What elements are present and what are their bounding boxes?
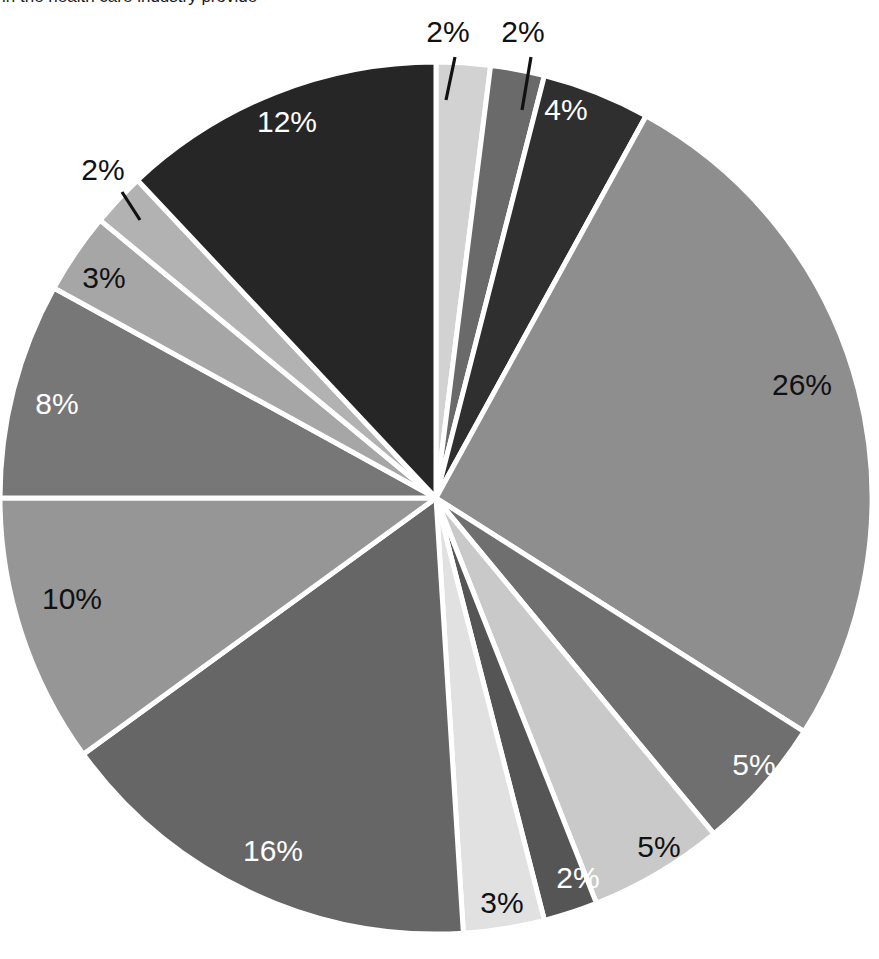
pie-slice-label: 26% [772, 368, 832, 401]
pie-slice-label: 5% [732, 748, 775, 781]
pie-slice-label: 3% [82, 261, 125, 294]
pie-slice-label: 3% [480, 886, 523, 919]
pie-slice-label-outside: 2% [501, 15, 544, 48]
pie-chart-svg: 2%2%4%26%5%5%2%3%16%10%8%3%2%12% [0, 0, 879, 959]
pie-slice-group [0, 62, 872, 934]
pie-slice-label: 8% [35, 387, 78, 420]
pie-slice-label: 10% [42, 582, 102, 615]
pie-slice-label-outside: 2% [426, 15, 469, 48]
pie-chart-page: in the health care industry provide 2%2%… [0, 0, 879, 959]
pie-chart-figure: 2%2%4%26%5%5%2%3%16%10%8%3%2%12% [0, 0, 879, 959]
pie-slice-label: 12% [257, 105, 317, 138]
pie-slice-label-outside: 2% [81, 153, 124, 186]
pie-slice-label: 4% [544, 93, 587, 126]
pie-slice-label: 16% [243, 834, 303, 867]
pie-slice-label: 2% [556, 861, 599, 894]
pie-slice-label: 5% [637, 830, 680, 863]
